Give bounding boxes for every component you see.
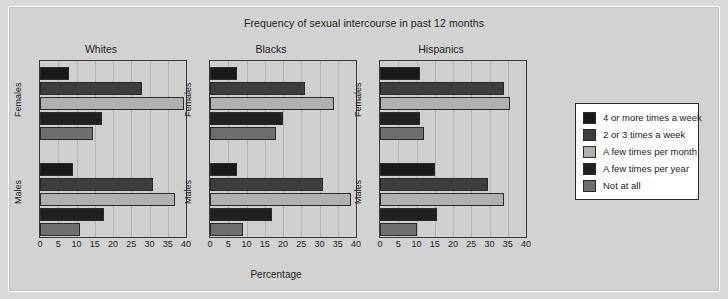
group-label-females: Females	[13, 65, 23, 135]
gridline	[320, 61, 321, 237]
bar	[40, 97, 184, 110]
legend-item: A few times per month	[583, 145, 690, 158]
bar	[210, 127, 276, 140]
x-axis-tick: 5	[396, 239, 401, 249]
x-axis-label: Percentage	[9, 269, 543, 280]
x-axis-tick: 0	[207, 239, 212, 249]
bar	[210, 178, 323, 191]
x-axis-tick: 30	[314, 239, 324, 249]
legend-label: 2 or 3 times a week	[603, 129, 685, 140]
bar	[380, 67, 420, 80]
gridline	[508, 61, 509, 237]
x-axis: 0510152025303540	[209, 239, 357, 253]
legend-swatch-icon	[583, 146, 596, 158]
x-axis-tick: 30	[484, 239, 494, 249]
bar	[40, 193, 175, 206]
gridline	[150, 61, 151, 237]
legend-item: 4 or more times a week	[583, 111, 690, 124]
legend-item: 2 or 3 times a week	[583, 128, 690, 141]
gridline	[338, 61, 339, 237]
panel-title: Whites	[15, 43, 187, 55]
bar	[380, 97, 510, 110]
panel-whites: WhitesFemalesMales0510152025303540	[15, 43, 187, 259]
bar	[40, 67, 69, 80]
bar	[40, 178, 153, 191]
plot-area	[209, 60, 357, 238]
x-axis-tick: 0	[37, 239, 42, 249]
group-label-females: Females	[353, 65, 363, 135]
legend-label: Not at all	[603, 180, 641, 191]
bar	[40, 208, 104, 221]
bar	[40, 82, 142, 95]
group-label-males: Males	[183, 161, 193, 223]
legend-swatch-icon	[583, 112, 596, 124]
x-axis: 0510152025303540	[379, 239, 527, 253]
x-axis-tick: 5	[226, 239, 231, 249]
x-axis-tick: 30	[144, 239, 154, 249]
panel-blacks: BlacksFemalesMales0510152025303540	[185, 43, 357, 259]
bar	[40, 127, 93, 140]
bar	[380, 112, 420, 125]
legend-item: Not at all	[583, 179, 690, 192]
panel-hispanics: HispanicsFemalesMales0510152025303540	[355, 43, 527, 259]
bar	[210, 193, 351, 206]
x-axis-tick: 10	[411, 239, 421, 249]
x-axis-tick: 15	[430, 239, 440, 249]
x-axis-tick: 15	[90, 239, 100, 249]
x-axis-tick: 20	[448, 239, 458, 249]
bar	[210, 223, 243, 236]
legend-item: A few times per year	[583, 162, 690, 175]
x-axis-tick: 35	[503, 239, 513, 249]
bar	[380, 223, 417, 236]
x-axis-tick: 15	[260, 239, 270, 249]
bar	[380, 163, 435, 176]
bar	[210, 67, 237, 80]
legend: 4 or more times a week2 or 3 times a wee…	[575, 103, 699, 200]
bar	[210, 97, 334, 110]
plot-area	[379, 60, 527, 238]
bar	[210, 163, 237, 176]
x-axis-tick: 35	[163, 239, 173, 249]
x-axis-tick: 20	[108, 239, 118, 249]
gridline	[168, 61, 169, 237]
bar	[380, 178, 488, 191]
plot-area	[39, 60, 187, 238]
bar	[210, 208, 272, 221]
x-axis-tick: 10	[241, 239, 251, 249]
bar	[380, 193, 504, 206]
legend-label: A few times per month	[603, 146, 697, 157]
bar	[210, 82, 305, 95]
figure-frame: Frequency of sexual intercourse in past …	[8, 6, 720, 292]
chart-title: Frequency of sexual intercourse in past …	[9, 17, 719, 29]
group-label-males: Males	[353, 161, 363, 223]
panel-title: Hispanics	[355, 43, 527, 55]
x-axis-tick: 25	[296, 239, 306, 249]
x-axis-tick: 5	[56, 239, 61, 249]
group-label-females: Females	[183, 65, 193, 135]
x-axis: 0510152025303540	[39, 239, 187, 253]
legend-label: A few times per year	[603, 163, 689, 174]
bar	[380, 82, 504, 95]
x-axis-tick: 40	[521, 239, 531, 249]
bar	[40, 223, 80, 236]
x-axis-tick: 20	[278, 239, 288, 249]
legend-swatch-icon	[583, 180, 596, 192]
bar	[210, 112, 283, 125]
legend-swatch-icon	[583, 129, 596, 141]
x-axis-tick: 25	[466, 239, 476, 249]
legend-swatch-icon	[583, 163, 596, 175]
bar	[380, 208, 437, 221]
x-axis-tick: 10	[71, 239, 81, 249]
panel-title: Blacks	[185, 43, 357, 55]
x-axis-tick: 35	[333, 239, 343, 249]
bar	[40, 112, 102, 125]
x-axis-tick: 0	[377, 239, 382, 249]
bar	[40, 163, 73, 176]
legend-label: 4 or more times a week	[603, 112, 702, 123]
x-axis-tick: 25	[126, 239, 136, 249]
group-label-males: Males	[13, 161, 23, 223]
bar	[380, 127, 424, 140]
